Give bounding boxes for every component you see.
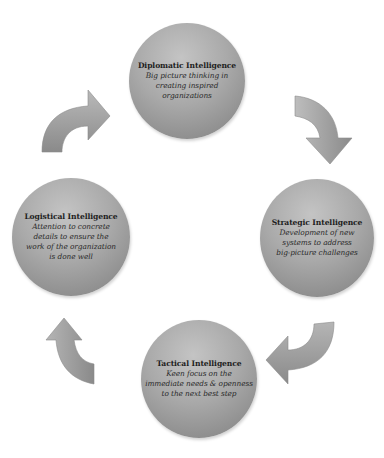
node-description-line: Big picture thinking in — [146, 71, 228, 81]
node-tactical-intelligence: Tactical Intelligence Keen focus on the … — [141, 320, 257, 438]
node-description-line: work of the organization — [26, 242, 116, 252]
node-description-line: big-picture challenges — [276, 248, 357, 258]
node-description-line: is done well — [49, 252, 92, 262]
node-description-line: Development of new — [279, 228, 354, 238]
node-title: Logistical Intelligence — [24, 212, 117, 222]
curved-arrow-down-icon — [290, 92, 356, 168]
node-description-line: Keen focus on the — [166, 369, 231, 379]
node-logistical-intelligence: Logistical Intelligence Attention to con… — [12, 178, 130, 296]
node-title: Strategic Intelligence — [272, 218, 363, 228]
node-title: Diplomatic Intelligence — [138, 61, 236, 71]
node-strategic-intelligence: Strategic Intelligence Development of ne… — [260, 179, 374, 297]
curved-arrow-up-right-icon — [38, 86, 114, 156]
curved-arrow-down-left-icon — [262, 318, 340, 388]
node-title: Tactical Intelligence — [156, 359, 241, 369]
node-description-line: immediate needs & openness — [145, 379, 253, 389]
node-description-line: Attention to concrete — [32, 222, 110, 232]
node-description-line: details to ensure the — [33, 232, 108, 242]
node-description-line: to the next best step — [162, 389, 237, 399]
node-description-line: systems to address — [282, 238, 352, 248]
cycle-diagram: Diplomatic Intelligence Big picture thin… — [0, 0, 384, 458]
node-diplomatic-intelligence: Diplomatic Intelligence Big picture thin… — [129, 23, 245, 139]
node-description-line: organizations — [162, 91, 212, 101]
curved-arrow-up-icon — [44, 314, 100, 388]
node-description-line: creating inspired — [156, 81, 219, 91]
